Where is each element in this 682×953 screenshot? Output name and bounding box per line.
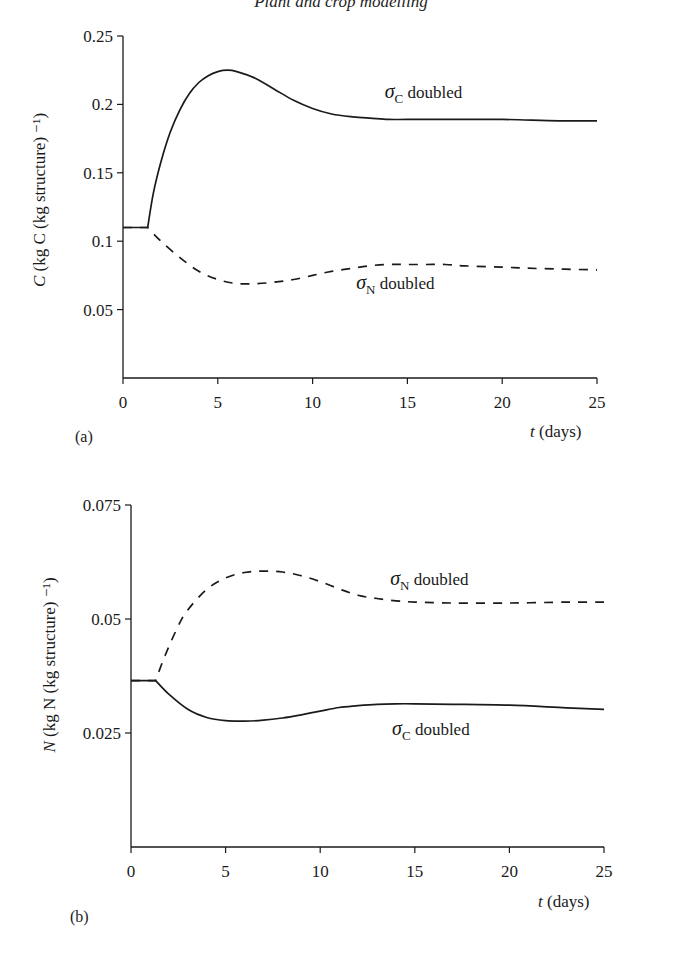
y-axis-title-b: N (kg N (kg structure) ⁻¹) [40,577,59,753]
y-tick-label: 0.05 [83,301,113,320]
series-label: σC doubled [385,80,463,106]
y-tick-label: 0.15 [83,164,113,183]
series-line-solid [131,681,604,722]
x-tick-label: 10 [304,393,321,412]
series-line-solid [123,70,597,227]
x-tick-label: 5 [221,862,230,881]
y-axis-a: 0.050.10.150.20.25 [83,27,123,378]
x-tick-label: 0 [127,862,136,881]
x-tick-label: 15 [406,862,423,881]
chart-panel-a: 0.050.10.150.20.25 0510152025 σC doubled… [30,27,606,446]
x-axis-title-a: t (days) [530,422,581,441]
series-label: σN doubled [356,271,435,297]
x-tick-label: 10 [312,862,329,881]
y-tick-label: 0.2 [92,95,113,114]
x-axis-b: 0510152025 [127,847,613,881]
x-axis-title-b: t (days) [538,892,589,911]
y-tick-label: 0.05 [91,610,121,629]
panel-label-a: (a) [75,428,93,446]
figure: 0.050.10.150.20.25 0510152025 σC doubled… [0,0,682,953]
y-axis-title-a: C (kg C (kg structure) ⁻¹) [30,113,49,287]
panel-label-b: (b) [70,908,89,926]
y-tick-label: 0.075 [83,496,121,515]
x-tick-label: 20 [501,862,518,881]
x-tick-label: 5 [214,393,223,412]
series-labels-b: σN doubledσC doubled [390,567,470,743]
series-lines-a [123,70,597,284]
y-axis-b: 0.0250.050.075 [83,496,131,847]
x-tick-label: 25 [596,862,613,881]
x-tick-label: 0 [119,393,128,412]
series-label: σC doubled [392,717,470,743]
x-tick-label: 20 [494,393,511,412]
x-tick-label: 15 [399,393,416,412]
x-axis-a: 0510152025 [119,378,606,412]
series-label: σN doubled [390,567,469,593]
series-line-dashed [131,571,604,680]
y-tick-label: 0.25 [83,27,113,46]
series-lines-b [131,571,604,721]
x-tick-label: 25 [589,393,606,412]
chart-panel-b: 0.0250.050.075 0510152025 σN doubledσC d… [40,496,613,926]
y-tick-label: 0.025 [83,724,121,743]
y-tick-label: 0.1 [92,232,113,251]
